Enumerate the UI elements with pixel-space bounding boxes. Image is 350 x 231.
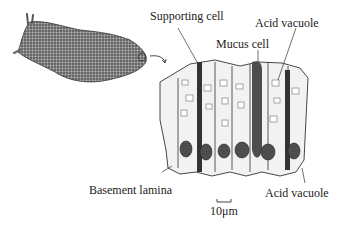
magnification-arrow [150, 56, 166, 63]
label-basement-lamina: Basement lamina [89, 184, 172, 196]
epithelium-section [160, 60, 308, 176]
scale-bar [217, 199, 231, 202]
label-acid-vacuole-bottom: Acid vacuole [265, 187, 329, 199]
label-mucus-cell: Mucus cell [216, 38, 269, 50]
scale-bar-label: 10μm [210, 205, 238, 217]
sea-slug-illustration [14, 14, 146, 82]
label-supporting-cell: Supporting cell [150, 10, 224, 22]
label-acid-vacuole-top: Acid vacuole [255, 17, 319, 29]
